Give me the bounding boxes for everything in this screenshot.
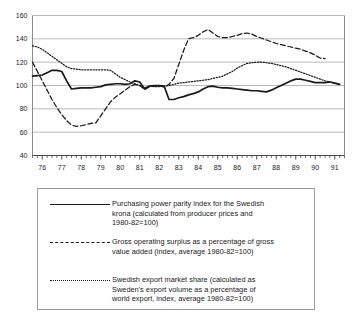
svg-text:87: 87 [253,164,261,171]
svg-text:82: 82 [155,164,163,171]
svg-text:160: 160 [16,12,28,19]
chart-plot-area: 406080100120140160 767778798081828384858… [0,0,356,180]
chart-page: 406080100120140160 767778798081828384858… [0,0,356,323]
svg-text:78: 78 [77,164,85,171]
svg-text:89: 89 [292,164,300,171]
svg-text:88: 88 [272,164,280,171]
svg-text:40: 40 [20,152,28,159]
legend-entry-export-market-share: Swedish export market share (calculated … [38,275,314,304]
svg-text:77: 77 [58,164,66,171]
svg-text:100: 100 [16,82,28,89]
svg-text:90: 90 [311,164,319,171]
svg-text:91: 91 [331,164,339,171]
svg-text:81: 81 [136,164,144,171]
svg-text:80: 80 [116,164,124,171]
legend-entry-ppp-index: Purchasing power parity index for the Sw… [38,199,314,228]
legend-label-export-market-share: Swedish export market share (calculated … [112,275,264,304]
svg-text:84: 84 [194,164,202,171]
series-line-dotted [33,46,340,88]
y-axis-tick-labels: 406080100120140160 [16,12,28,159]
svg-text:85: 85 [214,164,222,171]
legend-label-gross-operating-surplus: Gross operating surplus as a percentage … [112,237,282,256]
data-series-lines [33,30,340,127]
svg-text:120: 120 [16,59,28,66]
svg-text:83: 83 [175,164,183,171]
series-line-dashed [33,30,326,127]
legend-label-ppp-index: Purchasing power parity index for the Sw… [112,199,272,228]
x-axis-minor-ticks [33,156,345,160]
series-line-solid [33,70,340,99]
svg-text:76: 76 [38,164,46,171]
svg-text:140: 140 [16,35,28,42]
legend-key-dashed-line [46,237,112,249]
legend-key-dotted-line [46,275,112,287]
legend-key-solid-line [46,199,112,211]
line-chart-svg: 406080100120140160 767778798081828384858… [0,0,356,180]
svg-text:60: 60 [20,129,28,136]
legend-entry-gross-operating-surplus: Gross operating surplus as a percentage … [38,237,314,256]
svg-text:86: 86 [233,164,241,171]
svg-text:79: 79 [97,164,105,171]
chart-legend: Purchasing power parity index for the Sw… [37,188,315,310]
svg-text:80: 80 [20,105,28,112]
x-axis-tick-labels: 76777879808182838485868788899091 [38,164,338,171]
gridlines [33,16,345,156]
